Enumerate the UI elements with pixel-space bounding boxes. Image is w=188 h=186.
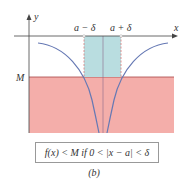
label-a-plus-delta: a + δ bbox=[110, 22, 132, 33]
x-axis-arrow-icon bbox=[172, 34, 178, 39]
x-axis-label: x bbox=[173, 22, 179, 33]
subfigure-label: (b) bbox=[0, 167, 188, 178]
label-M: M bbox=[15, 72, 25, 83]
label-a-minus-delta: a − δ bbox=[74, 22, 96, 33]
y-axis-arrow-icon bbox=[27, 14, 32, 20]
caption-box: f(x) < M if 0 < |x − a| < δ bbox=[35, 142, 159, 163]
y-axis-label: y bbox=[33, 11, 39, 22]
point-a-plus-delta bbox=[120, 35, 123, 38]
delta-band bbox=[84, 36, 121, 77]
region-below-M bbox=[29, 77, 174, 133]
point-a-minus-delta bbox=[83, 35, 86, 38]
